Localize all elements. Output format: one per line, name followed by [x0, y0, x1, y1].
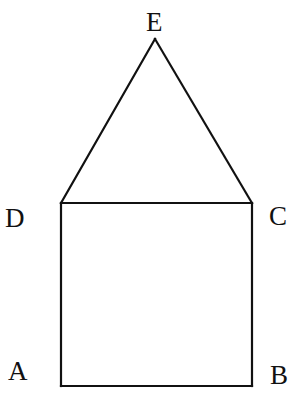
vertex-label-a: A [8, 356, 28, 386]
geometry-diagram: E D C A B [0, 0, 299, 396]
vertex-label-b: B [270, 360, 288, 390]
segment-de [61, 39, 155, 203]
vertex-label-c: C [269, 201, 287, 231]
segment-ec [155, 39, 252, 203]
vertex-label-e: E [146, 7, 163, 37]
vertex-label-d: D [5, 203, 25, 233]
